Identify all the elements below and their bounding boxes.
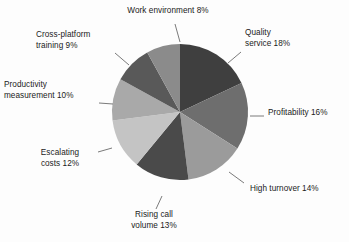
pie-label-productivity-measurement: Productivity measurement 10%	[4, 80, 110, 101]
pie-label-high-turnover: High turnover 14%	[250, 184, 346, 195]
pie-label-cross-platform-training: Cross-platform training 9%	[36, 30, 126, 51]
leader-line-escalating-costs	[98, 148, 112, 152]
leader-line-productivity-measurement	[99, 103, 113, 104]
leader-line-cross-platform-training	[115, 53, 129, 65]
leader-line-quality-service	[228, 52, 241, 63]
leader-line-high-turnover	[229, 172, 244, 183]
pie-label-profitability: Profitability 16%	[268, 108, 348, 119]
leader-line-work-environment	[175, 24, 180, 42]
leader-line-rising-call-volume	[156, 196, 162, 209]
pie-label-escalating-costs: Escalating costs 12%	[24, 148, 96, 169]
pie-label-work-environment: Work environment 8%	[108, 6, 228, 17]
pie-label-rising-call-volume: Rising call volume 13%	[110, 210, 198, 231]
pie-label-quality-service: Quality service 18%	[245, 28, 315, 49]
pie-chart-figure: Work environment 8% Quality service 18% …	[0, 0, 349, 242]
